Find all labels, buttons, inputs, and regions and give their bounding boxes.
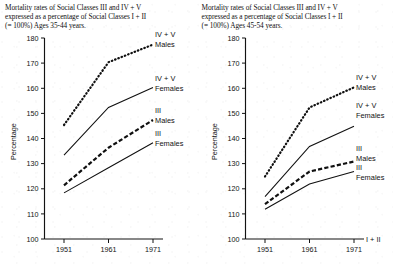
y-tick-label: 120 — [227, 184, 239, 193]
series-line-iii-females — [265, 172, 354, 210]
x-tick-label: 1961 — [101, 245, 117, 254]
series-label-line-1: IV + V — [356, 101, 376, 110]
y-tick-label: 140 — [27, 134, 39, 143]
plot-area-ages-35-44: 180 170 160 150 140 130 120 110 100 Perc… — [0, 0, 197, 264]
y-tick-label: 170 — [227, 59, 239, 68]
series-label-iii-females: III Females — [356, 163, 385, 182]
series-label-line-1: III — [155, 129, 161, 138]
series-label-line-1: IV + V — [155, 74, 175, 83]
series-label-iv-v-males: IV + V Males — [356, 73, 376, 92]
series-label-line-2: Males — [155, 116, 175, 125]
y-tick-label: 100 — [27, 235, 39, 244]
series-label-line-2: Males — [356, 83, 376, 92]
y-tick-label: 140 — [227, 134, 239, 143]
y-tick-label: 150 — [227, 109, 239, 118]
series-label-iii-males: III Males — [155, 106, 175, 125]
series-label-line-2: Males — [356, 154, 376, 163]
series-label-line-1: III — [155, 106, 161, 115]
y-tick-label: 160 — [27, 84, 39, 93]
x-axis-tick-labels: 1951 1961 1971 — [257, 245, 362, 254]
y-axis-title: Percentage — [9, 123, 18, 160]
series-label-iv-v-females: IV + V Females — [356, 101, 385, 120]
y-tick-label: 180 — [227, 34, 239, 43]
series-line-iii-males — [265, 162, 354, 205]
series-label-line-2: Females — [155, 139, 184, 148]
series-label-line-1: III — [356, 163, 362, 172]
panel-ages-35-44: Mortality rates of Social Classes III an… — [0, 0, 197, 264]
chart-svg-ages-35-44: 180 170 160 150 140 130 120 110 100 Perc… — [0, 0, 197, 264]
x-tick-label: 1971 — [145, 245, 161, 254]
x-tick-label: 1951 — [257, 245, 273, 254]
y-tick-label: 100 — [227, 235, 239, 244]
y-tick-label: 160 — [227, 84, 239, 93]
y-tick-label: 110 — [228, 210, 239, 219]
figure-mortality-rates: Mortality rates of Social Classes III an… — [0, 0, 393, 264]
x-tick-label: 1971 — [346, 245, 362, 254]
y-axis-title: Percentage — [210, 123, 219, 160]
series-label-line-2: Males — [155, 40, 175, 49]
plot-area-ages-45-54: 180 170 160 150 140 130 120 110 100 Perc… — [197, 0, 393, 264]
series-line-iv-v-females — [265, 126, 354, 196]
series-label-iii-males: III Males — [356, 144, 376, 163]
panel-ages-45-54: Mortality rates of Social Classes III an… — [197, 0, 393, 264]
series-label-line-1: IV + V — [155, 30, 175, 39]
series-label-line-1: III — [356, 144, 362, 153]
y-axis-tick-labels: 180 170 160 150 140 130 120 110 100 — [27, 34, 39, 244]
series-label-iii-females: III Females — [155, 129, 184, 148]
y-tick-label: 120 — [27, 184, 39, 193]
series-label-line-2: Females — [356, 111, 385, 120]
y-tick-label: 180 — [27, 34, 39, 43]
series-label-line-1: IV + V — [356, 73, 376, 82]
series-line-iii-males — [64, 120, 153, 185]
y-axis-tick-labels: 180 170 160 150 140 130 120 110 100 — [227, 34, 239, 244]
x-axis-ticks — [64, 239, 153, 243]
y-tick-label: 150 — [27, 109, 39, 118]
chart-svg-ages-45-54: 180 170 160 150 140 130 120 110 100 Perc… — [197, 0, 393, 264]
series-line-iii-females — [64, 143, 153, 193]
x-tick-label: 1961 — [301, 245, 317, 254]
y-tick-label: 110 — [27, 210, 38, 219]
series-line-iv-v-males — [64, 45, 153, 125]
x-tick-label: 1951 — [56, 245, 72, 254]
x-axis-tick-labels: 1951 1961 1971 — [56, 245, 161, 254]
x-axis-ticks — [265, 239, 354, 243]
series-label-line-2: Females — [356, 173, 385, 182]
series-label-line-2: Females — [155, 84, 184, 93]
series-label-iv-v-males: IV + V Males — [155, 30, 175, 49]
y-tick-label: 170 — [27, 59, 39, 68]
series-label-iv-v-females: IV + V Females — [155, 74, 184, 93]
reference-line-label-i-ii: I + II — [366, 235, 381, 244]
series-line-iv-v-females — [64, 87, 153, 155]
y-tick-label: 130 — [227, 159, 239, 168]
y-tick-label: 130 — [27, 159, 39, 168]
